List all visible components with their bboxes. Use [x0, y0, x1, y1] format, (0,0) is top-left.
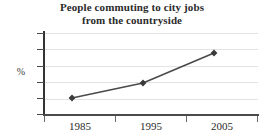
data-point-marker-2005 [211, 50, 218, 57]
data-point-marker-1995 [140, 80, 147, 87]
chart-container: People commuting to city jobs from the c… [0, 0, 264, 139]
series-line [72, 53, 214, 98]
data-series [0, 0, 264, 139]
data-point-marker-1985 [69, 95, 76, 102]
